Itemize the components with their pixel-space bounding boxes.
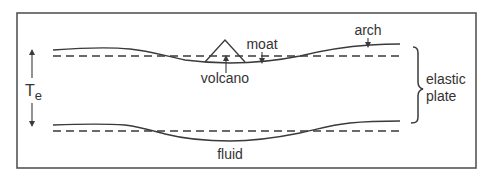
flexure-diagram: volcano moat arch fluid Te elastic plate (0, 0, 494, 177)
moat-label: moat (246, 36, 277, 52)
arch-label: arch (354, 22, 381, 38)
thickness-label: Te (25, 82, 42, 103)
plate-brace-icon (411, 47, 423, 123)
plate-label-line2: plate (426, 88, 457, 104)
thickness-symbol: T (25, 82, 35, 99)
volcano-label: volcano (201, 70, 249, 86)
plate-label-line1: elastic (426, 71, 466, 87)
volcano-triangle (205, 40, 245, 62)
thickness-subscript: e (35, 88, 42, 103)
fluid-label: fluid (217, 146, 243, 162)
